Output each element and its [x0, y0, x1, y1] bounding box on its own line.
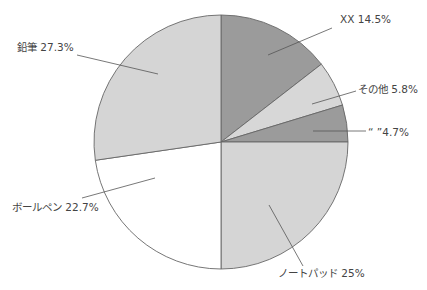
slice-label-3: ノートパッド 25%: [278, 267, 365, 279]
pie-chart: XX 14.5%その他 5.8%“ ”4.7%ノートパッド 25%ボールペン 2…: [0, 0, 427, 290]
slice-label-2: “ ”4.7%: [368, 126, 409, 138]
pie-slice-5: [94, 15, 221, 160]
pie-slice-4: [95, 142, 221, 269]
pie-slice-3: [221, 142, 348, 269]
slice-label-1: その他 5.8%: [358, 83, 418, 95]
slice-label-5: 鉛筆 27.3%: [17, 41, 74, 53]
pie-slices: [94, 15, 348, 269]
slice-label-4: ボールペン 22.7%: [12, 201, 99, 213]
slice-label-0: XX 14.5%: [340, 13, 391, 25]
